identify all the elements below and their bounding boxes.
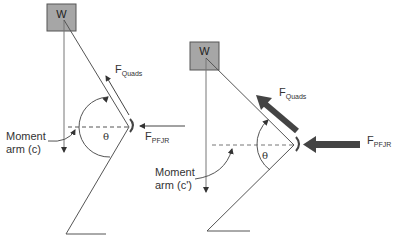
angle-theta-right: θ <box>262 150 268 161</box>
moment-arm-pointer-right <box>195 149 232 179</box>
pfjr-force-sub-right: PFJR <box>374 141 392 148</box>
moment-arm-line1-right: Moment <box>155 166 195 179</box>
weight-label-right: W <box>190 45 219 57</box>
pfjr-force-label-right: FPFJR <box>367 134 391 151</box>
pfjr-force-sub-left: PFJR <box>152 137 170 144</box>
shin-line-left <box>66 127 129 234</box>
quads-force-sub-left: Quads <box>122 70 143 77</box>
left-diagram <box>47 4 185 234</box>
moment-arm-label-left: Moment arm (c) <box>6 130 46 156</box>
quads-force-main-left: F <box>115 63 122 75</box>
pfjr-arrow-right-head <box>303 136 316 153</box>
right-diagram <box>190 42 360 231</box>
patella-left <box>130 119 133 132</box>
quads-force-main-right: F <box>279 86 286 98</box>
quads-arrow-right-shaft <box>264 103 297 131</box>
quads-force-label-right: FQuads <box>279 86 306 103</box>
patella-right <box>296 137 299 151</box>
weight-label-left: W <box>47 8 76 20</box>
moment-arm-label-right: Moment arm (c') <box>155 166 195 192</box>
quads-force-label-left: FQuads <box>115 63 142 80</box>
angle-theta-left: θ <box>103 131 109 142</box>
pfjr-force-main-right: F <box>367 134 374 146</box>
pfjr-force-label-left: FPFJR <box>145 130 169 147</box>
moment-arm-line1-left: Moment <box>6 130 46 143</box>
pfjr-force-main-left: F <box>145 130 152 142</box>
knee-force-diagram <box>0 0 399 242</box>
angle-arc-arrowhead-right <box>266 120 268 122</box>
shin-line-right <box>207 145 294 231</box>
moment-arm-pointer-left <box>48 130 75 141</box>
quads-force-sub-right: Quads <box>286 93 307 100</box>
moment-arm-line2-left: arm (c) <box>6 143 46 156</box>
moment-arm-line2-right: arm (c') <box>155 179 195 192</box>
pfjr-arrow-right-shaft <box>312 141 360 148</box>
